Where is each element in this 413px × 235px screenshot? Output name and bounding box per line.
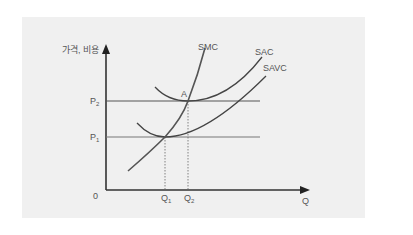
savc-curve [137,76,266,137]
origin-label: 0 [93,191,98,201]
price-label-p1: P1 [90,132,100,143]
sac-label: SAC [255,47,274,57]
smc-label: SMC [198,42,219,52]
quantity-label-q1: Q1 [161,193,172,204]
cost-curve-diagram: 가격, 비용 Q 0 P2 P1 Q1 Q2 SMC SAC SAVC A [0,0,413,235]
quantity-label-q2: Q2 [184,193,195,204]
y-axis-arrow-icon [102,44,110,54]
y-axis-label: 가격, 비용 [62,44,99,55]
smc-curve [128,48,205,171]
x-axis-label: Q [302,196,309,206]
savc-label: SAVC [263,63,287,73]
x-axis-arrow-icon [300,186,310,194]
price-label-p2: P2 [90,96,100,107]
point-a-label: A [181,89,187,99]
